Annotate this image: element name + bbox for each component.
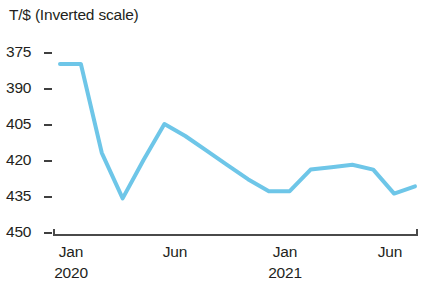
chart-container: T/$ (Inverted scale) 375 390 405 420 435… (0, 0, 423, 287)
plot-area (0, 0, 423, 287)
data-series-line (60, 64, 415, 198)
